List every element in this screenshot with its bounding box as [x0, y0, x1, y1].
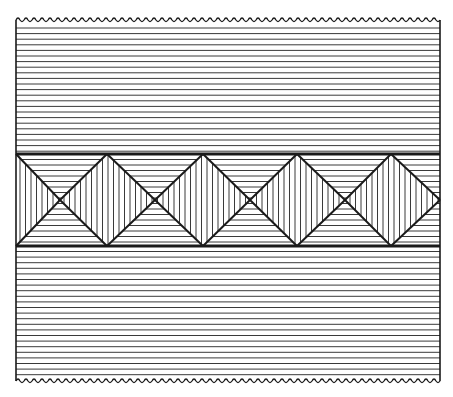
band-diagonal-lines: [16, 154, 440, 246]
pattern-figure: Hatched textile pattern with diamond ban…: [0, 0, 453, 397]
frame-border: [16, 20, 440, 381]
field-horizontal-hatching: [16, 28, 440, 375]
pattern-drawing: [0, 0, 453, 397]
